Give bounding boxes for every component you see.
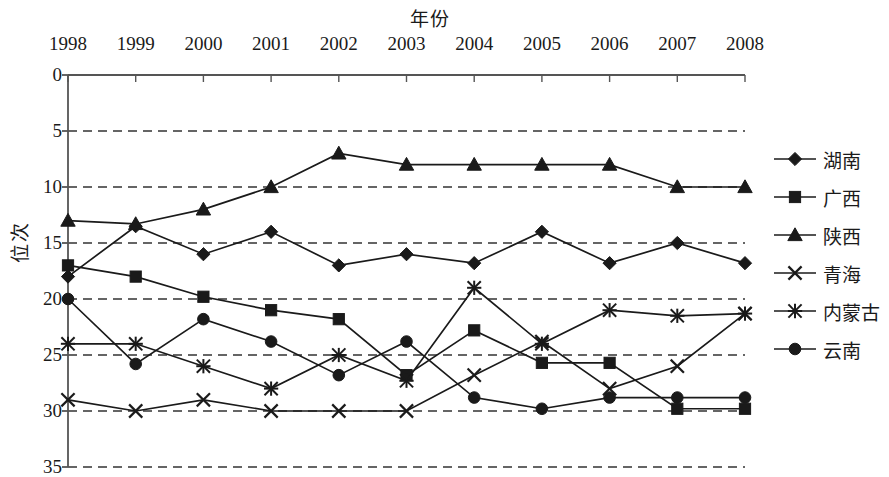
legend-item-内蒙古[interactable]: 内蒙古 [772, 292, 889, 330]
series-青海 [61, 307, 751, 418]
data-point-diamond [400, 248, 413, 261]
data-point-asterisk [399, 374, 413, 388]
asterisk-icon [772, 301, 818, 321]
legend-item-广西[interactable]: 广西 [772, 178, 889, 216]
line-chart: 年份 位次 1998199920002001200220032004200520… [0, 0, 889, 477]
data-point-diamond [468, 257, 481, 270]
legend-item-湖南[interactable]: 湖南 [772, 140, 889, 178]
data-point-diamond [788, 152, 801, 165]
legend-item-label: 内蒙古 [823, 298, 880, 325]
data-point-cross [468, 369, 481, 382]
legend-item-label: 陕西 [823, 222, 861, 249]
data-point-circle [333, 369, 345, 381]
legend-item-label: 广西 [823, 184, 861, 211]
data-point-asterisk [332, 348, 346, 362]
data-point-square [333, 314, 344, 325]
data-point-diamond [61, 270, 74, 283]
cross-icon [772, 263, 818, 283]
data-point-diamond [535, 225, 548, 238]
data-point-circle [198, 313, 210, 325]
legend-item-label: 湖南 [823, 146, 861, 173]
data-point-square [739, 403, 750, 414]
series-陕西 [61, 146, 752, 229]
diamond-icon [772, 149, 818, 169]
data-point-square [198, 291, 209, 302]
data-point-circle [672, 392, 684, 404]
data-point-asterisk [264, 381, 278, 395]
data-point-square [266, 305, 277, 316]
data-point-diamond [738, 257, 751, 270]
data-point-asterisk [602, 303, 616, 317]
legend-item-青海[interactable]: 青海 [772, 254, 889, 292]
triangle-icon [772, 225, 818, 245]
data-point-circle [604, 392, 616, 404]
data-point-square [62, 260, 73, 271]
data-point-asterisk [129, 337, 143, 351]
data-point-asterisk [535, 337, 549, 351]
legend-item-云南[interactable]: 云南 [772, 330, 889, 368]
data-point-circle [265, 336, 277, 348]
data-point-circle [739, 392, 751, 404]
legend-item-label: 云南 [823, 336, 861, 363]
data-point-asterisk [61, 337, 75, 351]
square-icon [772, 187, 818, 207]
data-point-diamond [671, 236, 684, 249]
data-point-triangle [61, 213, 75, 226]
data-point-circle [789, 343, 801, 355]
data-point-asterisk [670, 309, 684, 323]
series-湖南 [61, 220, 751, 284]
data-point-asterisk [788, 304, 802, 318]
data-point-square [672, 403, 683, 414]
data-point-square [130, 271, 141, 282]
circle-icon [772, 339, 818, 359]
data-point-asterisk [467, 281, 481, 295]
legend: 湖南广西陕西青海内蒙古云南 [772, 140, 889, 368]
data-point-square [536, 357, 547, 368]
series-line [68, 299, 745, 409]
plot-area [0, 0, 889, 477]
legend-item-陕西[interactable]: 陕西 [772, 216, 889, 254]
data-point-circle [130, 358, 142, 370]
data-point-square [469, 325, 480, 336]
data-point-circle [62, 293, 74, 305]
data-point-asterisk [196, 359, 210, 373]
data-point-circle [468, 392, 480, 404]
data-point-triangle [332, 146, 346, 159]
data-point-diamond [603, 257, 616, 270]
data-point-diamond [197, 248, 210, 261]
data-point-square [604, 357, 615, 368]
series-line [68, 314, 745, 411]
data-point-diamond [265, 225, 278, 238]
data-point-circle [401, 336, 413, 348]
data-point-cross [671, 360, 684, 373]
legend-item-label: 青海 [823, 260, 861, 287]
data-point-circle [536, 403, 548, 415]
data-point-asterisk [738, 306, 752, 320]
data-point-diamond [332, 259, 345, 272]
data-point-square [789, 191, 800, 202]
